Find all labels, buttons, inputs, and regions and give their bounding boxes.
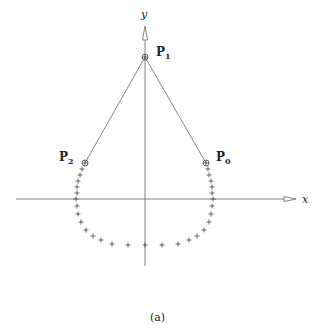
y-axis — [143, 26, 148, 266]
curve-points — [74, 167, 216, 248]
curve-point-marker — [210, 204, 215, 209]
curve-point-marker — [176, 242, 181, 247]
curve-point-marker — [84, 228, 89, 233]
curve-point-marker — [209, 179, 214, 184]
curve-point-marker — [78, 173, 83, 178]
p2-label: P2 — [59, 150, 74, 166]
curve-point-marker — [160, 243, 165, 248]
curve-point-marker — [202, 228, 207, 233]
p0-label: P0 — [216, 150, 231, 166]
curve-point-marker — [195, 234, 200, 239]
bezier-diagram: y x P1 P2 P0 (a) — [0, 0, 322, 332]
curve-point-marker — [211, 197, 216, 202]
x-axis-arrow-icon — [284, 197, 296, 202]
curve-point-marker — [74, 197, 79, 202]
p1-label: P1 — [156, 45, 171, 61]
curve-point-marker — [75, 191, 80, 196]
control-point-p1 — [142, 54, 148, 60]
curve-point-marker — [75, 185, 80, 190]
control-point-p2 — [82, 160, 88, 166]
curve-point-marker — [210, 185, 215, 190]
curve-point-marker — [91, 234, 96, 239]
curve-point-marker — [187, 238, 192, 243]
curve-point-marker — [207, 220, 212, 225]
curve-point-marker — [143, 243, 148, 248]
curve-point-marker — [110, 242, 115, 247]
curve-point-marker — [75, 204, 80, 209]
curve-point-marker — [210, 191, 215, 196]
curve-point-marker — [99, 238, 104, 243]
curve-point-marker — [80, 167, 85, 172]
curve-point-marker — [207, 173, 212, 178]
control-point-p0 — [203, 160, 209, 166]
curve-point-marker — [206, 167, 211, 172]
curve-point-marker — [76, 212, 81, 217]
x-axis — [16, 197, 296, 202]
figure-caption: (a) — [150, 311, 165, 324]
curve-point-marker — [209, 212, 214, 217]
y-axis-arrow-icon — [143, 26, 148, 40]
x-axis-label: x — [302, 193, 309, 206]
curve-point-marker — [76, 179, 81, 184]
control-polygon — [85, 57, 206, 163]
curve-point-marker — [79, 220, 84, 225]
curve-point-marker — [126, 243, 131, 248]
y-axis-label: y — [140, 8, 148, 21]
